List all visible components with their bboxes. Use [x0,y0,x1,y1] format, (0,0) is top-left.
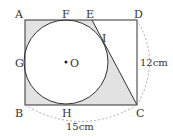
label-o: O [70,57,79,70]
width-label: 15cm [66,121,94,132]
shaded-region [24,20,137,105]
geometry-diagram: A F E D I G O B H C 12cm 15cm [0,0,173,137]
label-e: E [86,8,94,21]
label-g: G [15,57,24,70]
width-dimension-arc [25,105,137,122]
label-d: D [134,8,143,21]
label-c: C [136,107,144,120]
label-a: A [14,8,24,21]
label-i: I [102,32,106,45]
height-label: 12cm [140,57,168,68]
label-b: B [15,107,23,120]
label-h: H [62,107,72,120]
center-point-o [65,61,68,64]
label-f: F [62,8,70,21]
